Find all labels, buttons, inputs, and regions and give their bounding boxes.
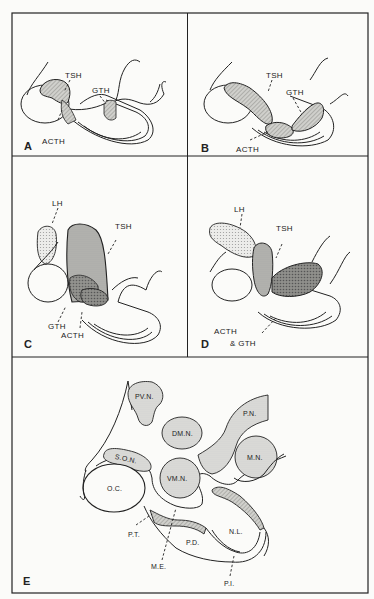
label-mn: M.N. bbox=[247, 454, 263, 461]
panel-letter-c: C bbox=[24, 338, 32, 350]
label-pd: P.D. bbox=[186, 539, 200, 546]
panel-e: PV.N. DM.N. P.N. S.O.N. M.N. VM.N. O.C. … bbox=[23, 381, 286, 587]
label-pvn: PV.N. bbox=[135, 393, 154, 400]
label-pi: P.I. bbox=[224, 580, 234, 587]
label-oc: O.C. bbox=[107, 485, 122, 492]
panel-letter-a: A bbox=[24, 140, 32, 152]
pituitary-hypothalamus-figure: TSH GTH ACTH A TSH GTH ACTH B bbox=[0, 0, 374, 599]
label-tsh: TSH bbox=[266, 71, 283, 80]
label-acth: ACTH bbox=[61, 331, 84, 340]
panel-c: LH TSH GTH ACTH C bbox=[24, 199, 162, 350]
label-tsh: TSH bbox=[115, 222, 132, 231]
label-pn: P.N. bbox=[243, 410, 257, 417]
label-lh: LH bbox=[52, 199, 63, 208]
label-vmn: VM.N. bbox=[167, 475, 187, 482]
label-acth: ACTH bbox=[42, 137, 65, 146]
label-gth: GTH bbox=[48, 322, 66, 331]
panel-letter-d: D bbox=[201, 338, 209, 350]
label-me: M.E. bbox=[151, 563, 166, 570]
label-tsh: TSH bbox=[65, 71, 82, 80]
label-nl: N.L. bbox=[229, 528, 243, 535]
label-dmn: DM.N. bbox=[172, 430, 193, 437]
label-tsh: TSH bbox=[276, 224, 293, 233]
label-gth: & GTH bbox=[230, 339, 256, 348]
panel-b: TSH GTH ACTH B bbox=[201, 58, 348, 154]
panel-letter-b: B bbox=[201, 142, 209, 154]
label-gth: GTH bbox=[92, 86, 110, 95]
panel-letter-e: E bbox=[23, 575, 30, 587]
label-gth: GTH bbox=[286, 88, 304, 97]
panel-d: LH TSH ACTH & GTH D bbox=[201, 205, 350, 350]
label-acth: ACTH bbox=[214, 327, 237, 336]
panel-a: TSH GTH ACTH A bbox=[21, 60, 166, 152]
label-pt: P.T. bbox=[128, 531, 140, 538]
label-lh: LH bbox=[234, 205, 245, 214]
label-acth: ACTH bbox=[236, 145, 259, 154]
